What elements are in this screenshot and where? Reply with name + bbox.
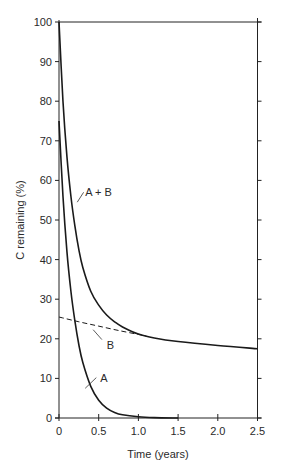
annotation-label: A + B <box>85 186 112 198</box>
y-tick-label: 40 <box>40 254 52 266</box>
x-axis-title: Time (years) <box>127 448 188 460</box>
y-tick-label: 20 <box>40 333 52 345</box>
y-tick-label: 0 <box>46 412 52 424</box>
annotation-leader <box>77 192 83 202</box>
annotation-leader <box>93 330 102 340</box>
data-series <box>59 22 258 418</box>
curve-annotations: A + BBA <box>77 186 114 388</box>
y-axis-title: C remaining (%) <box>14 180 26 259</box>
decay-chart: 0102030405060708090100 00.51.01.52.02.5 … <box>0 0 284 470</box>
series-a-line <box>59 121 178 418</box>
x-tick-label: 2.0 <box>210 425 225 437</box>
x-tick-label: 1.0 <box>131 425 146 437</box>
y-tick-label: 70 <box>40 135 52 147</box>
y-tick-label: 10 <box>40 372 52 384</box>
y-tick-label: 50 <box>40 214 52 226</box>
annotation-label: B <box>107 339 114 351</box>
plot-frame <box>55 18 262 418</box>
annotation-label: A <box>100 372 108 384</box>
x-tick-label: 0 <box>56 425 62 437</box>
y-axis-ticks: 0102030405060708090100 <box>34 16 262 424</box>
x-tick-label: 1.5 <box>170 425 185 437</box>
x-tick-label: 0.5 <box>91 425 106 437</box>
y-tick-label: 30 <box>40 293 52 305</box>
y-tick-label: 80 <box>40 95 52 107</box>
y-tick-label: 90 <box>40 56 52 68</box>
x-tick-label: 2.5 <box>250 425 265 437</box>
y-tick-label: 60 <box>40 174 52 186</box>
y-tick-label: 100 <box>34 16 52 28</box>
series-b-line <box>59 317 146 336</box>
